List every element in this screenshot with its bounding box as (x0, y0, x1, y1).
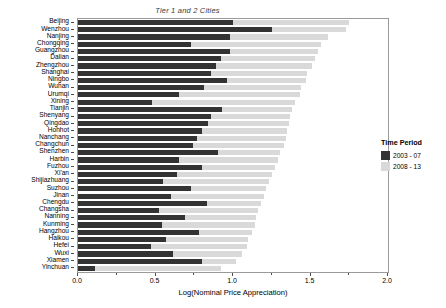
bar-segment-2003-07 (78, 107, 222, 112)
y-tick-mark (71, 137, 74, 138)
bar-segment-2008-13 (191, 186, 265, 191)
bar-row (78, 222, 388, 227)
x-minor-tick-mark (193, 273, 194, 275)
bar-segment-2003-07 (78, 157, 179, 162)
bar-segment-2008-13 (95, 266, 221, 271)
bar-row (78, 63, 388, 68)
y-tick-mark (71, 267, 74, 268)
y-tick-mark (71, 173, 74, 174)
y-tick-mark (71, 217, 74, 218)
bar-segment-2003-07 (78, 251, 173, 256)
bar-row (78, 208, 388, 213)
bar-segment-2003-07 (78, 136, 197, 141)
bar-segment-2003-07 (78, 34, 230, 39)
y-tick-label: Beijing (49, 18, 69, 25)
bar-segment-2003-07 (78, 78, 227, 83)
y-tick-mark (71, 188, 74, 189)
bar-segment-2008-13 (222, 107, 292, 112)
y-tick-mark (71, 130, 74, 131)
bar-segment-2008-13 (230, 49, 318, 54)
bar-segment-2003-07 (78, 63, 216, 68)
y-tick-mark (71, 94, 74, 95)
bar-segment-2008-13 (179, 92, 300, 97)
x-tick-mark (155, 273, 156, 276)
legend: Time Period 2003 - 07 2008 - 13 (381, 138, 445, 172)
bar-segment-2003-07 (78, 230, 199, 235)
y-tick-mark (71, 145, 74, 146)
bar-segment-2003-07 (78, 27, 272, 32)
bar-row (78, 20, 388, 25)
bar-segment-2008-13 (204, 85, 302, 90)
bar-segment-2003-07 (78, 165, 202, 170)
x-minor-tick-mark (271, 273, 272, 275)
bar-segment-2003-07 (78, 222, 162, 227)
legend-item[interactable]: 2003 - 07 (381, 150, 445, 160)
bar-row (78, 121, 388, 126)
bar-row (78, 179, 388, 184)
bar-segment-2003-07 (78, 20, 233, 25)
bar-row (78, 244, 388, 249)
x-tick-mark (77, 273, 78, 276)
bar-row (78, 78, 388, 83)
y-tick-mark (71, 166, 74, 167)
bar-row (78, 215, 388, 220)
bar-segment-2008-13 (151, 244, 247, 249)
x-tick-label: 0.0 (72, 277, 82, 284)
bar-row (78, 143, 388, 148)
bar-row (78, 34, 388, 39)
bar-segment-2003-07 (78, 42, 191, 47)
bar-segment-2008-13 (159, 208, 258, 213)
bar-segment-2008-13 (163, 179, 268, 184)
bars-container (78, 19, 388, 272)
bar-segment-2008-13 (191, 42, 321, 47)
bar-segment-2003-07 (78, 143, 193, 148)
bar-segment-2008-13 (230, 34, 328, 39)
bar-segment-2008-13 (185, 215, 256, 220)
bar-segment-2003-07 (78, 172, 177, 177)
bar-segment-2008-13 (171, 194, 264, 199)
legend-title: Time Period (381, 138, 445, 147)
bar-row (78, 136, 388, 141)
bar-row (78, 266, 388, 271)
bar-segment-2003-07 (78, 100, 152, 105)
bar-segment-2008-13 (208, 121, 289, 126)
bar-segment-2003-07 (78, 128, 202, 133)
bar-segment-2008-13 (202, 259, 236, 264)
y-tick-mark (71, 181, 74, 182)
bar-segment-2003-07 (78, 92, 179, 97)
bar-segment-2003-07 (78, 49, 230, 54)
legend-label-2008-13: 2008 - 13 (393, 163, 421, 170)
bar-row (78, 157, 388, 162)
legend-item[interactable]: 2008 - 13 (381, 161, 445, 171)
bar-segment-2003-07 (78, 244, 151, 249)
y-tick-mark (71, 246, 74, 247)
y-tick-mark (71, 123, 74, 124)
x-tick-mark (232, 273, 233, 276)
bar-segment-2003-07 (78, 179, 163, 184)
legend-label-2003-07: 2003 - 07 (393, 152, 421, 159)
y-tick-mark (71, 116, 74, 117)
bar-segment-2003-07 (78, 56, 221, 61)
y-tick-mark (71, 22, 74, 23)
bar-segment-2008-13 (173, 251, 243, 256)
bar-segment-2003-07 (78, 237, 166, 242)
bar-segment-2008-13 (199, 230, 252, 235)
bar-row (78, 172, 388, 177)
y-tick-mark (71, 231, 74, 232)
bar-segment-2008-13 (202, 165, 275, 170)
y-tick-mark (71, 202, 74, 203)
y-tick-mark (71, 36, 74, 37)
legend-swatch-2003-07 (381, 151, 390, 160)
bar-segment-2008-13 (179, 157, 278, 162)
x-axis-title: Log(Nominal Price Appreciation) (77, 288, 389, 297)
bar-row (78, 71, 388, 76)
y-tick-mark (71, 87, 74, 88)
y-tick-mark (71, 159, 74, 160)
bar-row (78, 237, 388, 242)
bar-segment-2003-07 (78, 85, 204, 90)
bar-segment-2008-13 (227, 78, 306, 83)
bar-segment-2003-07 (78, 201, 207, 206)
bar-row (78, 251, 388, 256)
y-tick-mark (71, 65, 74, 66)
y-tick-mark (71, 29, 74, 30)
